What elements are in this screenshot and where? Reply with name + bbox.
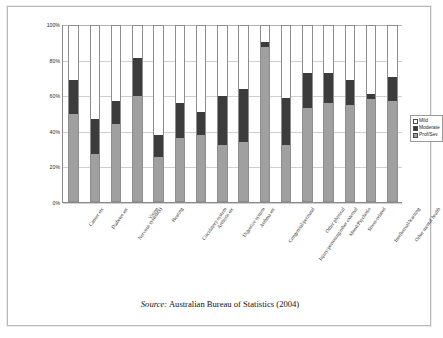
bar-segment — [303, 73, 312, 108]
x-axis-tick-label: Cancer etc — [87, 206, 104, 227]
y-axis-tick-label: 60% — [50, 93, 60, 99]
bar-column[interactable] — [387, 25, 398, 202]
figure-frame: 0%20%40%60%80%100% Cancer etcDiabetes et… — [7, 6, 431, 326]
bar-segment — [282, 98, 291, 145]
bar-segment — [69, 114, 78, 202]
bar-segment — [324, 26, 333, 73]
plot-area: 0%20%40%60%80%100% — [62, 25, 402, 203]
bar-segment — [218, 145, 227, 201]
x-axis-tick-label: Hearing — [170, 206, 184, 223]
bar-segment — [176, 138, 185, 201]
bar-segment — [303, 108, 312, 201]
bar-column[interactable] — [90, 25, 101, 202]
bar-column[interactable] — [323, 25, 334, 202]
bar-segment — [367, 99, 376, 201]
bar-segment — [261, 26, 270, 42]
bar-segment — [388, 101, 397, 201]
bar-segment — [112, 26, 121, 101]
bar-column[interactable] — [302, 25, 313, 202]
y-axis-tick-label: 20% — [50, 164, 60, 170]
bar-segment — [69, 26, 78, 80]
bar-segment — [69, 80, 78, 113]
bar-segment — [282, 145, 291, 201]
bar-segment — [367, 26, 376, 94]
bars-layer — [63, 25, 402, 202]
bar-segment — [346, 80, 355, 104]
bar-segment — [239, 142, 248, 202]
bar-segment — [218, 26, 227, 96]
bar-segment — [239, 26, 248, 89]
y-axis-tick-label: 100% — [47, 22, 60, 28]
bar-segment — [346, 105, 355, 201]
chart-legend: MildModerateProf/Sev — [410, 115, 443, 142]
legend-item-label: Moderate — [419, 126, 440, 131]
bar-column[interactable] — [175, 25, 186, 202]
bar-segment — [388, 77, 397, 101]
bar-segment — [261, 47, 270, 201]
bar-column[interactable] — [153, 25, 164, 202]
bar-segment — [197, 26, 206, 112]
bar-segment — [324, 73, 333, 103]
bar-segment — [282, 26, 291, 98]
bar-segment — [133, 26, 142, 58]
bar-column[interactable] — [196, 25, 207, 202]
y-axis-tick-label: 80% — [50, 58, 60, 64]
legend-item[interactable]: Mild — [413, 118, 440, 125]
bar-segment — [91, 119, 100, 154]
bar-column[interactable] — [217, 25, 228, 202]
legend-item[interactable]: Prof/Sev — [413, 132, 440, 139]
bar-segment — [324, 103, 333, 201]
source-caption: Source: Australian Bureau of Statistics … — [8, 299, 432, 309]
source-label: Source: — [141, 299, 167, 309]
legend-swatch-icon — [413, 119, 418, 124]
legend-swatch-icon — [413, 126, 418, 131]
bar-segment — [133, 96, 142, 201]
bar-segment — [154, 157, 163, 201]
bar-column[interactable] — [111, 25, 122, 202]
bar-column[interactable] — [68, 25, 79, 202]
bar-column[interactable] — [281, 25, 292, 202]
bar-segment — [154, 135, 163, 158]
legend-item-label: Mild — [419, 119, 428, 124]
chart-area: 0%20%40%60%80%100% Cancer etcDiabetes et… — [29, 17, 419, 277]
gridline — [63, 203, 402, 204]
bar-segment — [176, 26, 185, 103]
bar-column[interactable] — [260, 25, 271, 202]
bar-segment — [388, 26, 397, 77]
bar-column[interactable] — [132, 25, 143, 202]
bar-segment — [154, 26, 163, 135]
bar-segment — [133, 58, 142, 97]
y-axis-tick-label: 0% — [53, 200, 61, 206]
bar-segment — [303, 26, 312, 73]
x-axis-tick-label: Congenital/perinatal — [287, 206, 316, 244]
bar-segment — [176, 103, 185, 138]
bar-segment — [346, 26, 355, 80]
bar-segment — [239, 89, 248, 142]
bar-column[interactable] — [238, 25, 249, 202]
x-axis-labels: Cancer etcDiabetes etcNervous system(s)V… — [62, 206, 402, 276]
x-axis-tick-label: Diabetes etc — [110, 206, 129, 230]
bar-segment — [197, 135, 206, 202]
y-axis-tick-label: 40% — [50, 129, 60, 135]
legend-swatch-icon — [413, 133, 418, 138]
bar-segment — [91, 26, 100, 119]
legend-item-label: Prof/Sev — [419, 133, 438, 138]
legend-item[interactable]: Moderate — [413, 125, 440, 132]
bar-segment — [112, 124, 121, 201]
bar-segment — [112, 101, 121, 124]
bar-segment — [197, 112, 206, 135]
bar-segment — [91, 154, 100, 201]
bar-segment — [218, 96, 227, 145]
bar-column[interactable] — [345, 25, 356, 202]
bar-column[interactable] — [366, 25, 377, 202]
source-text: Australian Bureau of Statistics (2004) — [167, 299, 299, 309]
